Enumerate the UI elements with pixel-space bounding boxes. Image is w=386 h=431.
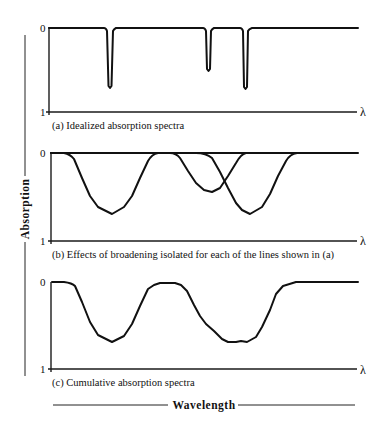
panel-b-y-bottom-label: 1 xyxy=(40,235,46,247)
panel-c-y-bottom-label: 1 xyxy=(40,363,46,375)
panel-a-y-bottom-label: 1 xyxy=(40,106,46,118)
panel-c-y-top-label: 0 xyxy=(40,276,46,288)
panel-b-broadened-line-3 xyxy=(196,153,297,214)
panel-b-broadened-line-2 xyxy=(170,153,246,192)
x-axis-title-group: Wavelength xyxy=(53,399,355,412)
panel-b-broadened-line-1 xyxy=(51,153,158,214)
x-axis-title: Wavelength xyxy=(172,399,235,412)
y-axis-title-group: Absorption xyxy=(19,35,32,376)
panel-a: 0 1 λ (a) Idealized absorption spectra xyxy=(40,22,366,132)
y-axis-title: Absorption xyxy=(19,179,32,240)
panel-a-spectrum-curve xyxy=(49,28,358,89)
panel-c-caption: (c) Cumulative absorption spectra xyxy=(52,377,195,389)
panel-a-caption: (a) Idealized absorption spectra xyxy=(52,120,184,132)
absorption-spectra-figure: Absorption 0 1 λ (a) Idealized absorptio… xyxy=(0,0,386,431)
panel-b-lambda-label: λ xyxy=(360,234,366,248)
panel-c: 0 1 λ (c) Cumulative absorption spectra xyxy=(40,276,366,389)
panel-c-cumulative-curve xyxy=(52,282,358,342)
panel-c-lambda-label: λ xyxy=(360,363,366,377)
figure-canvas: Absorption 0 1 λ (a) Idealized absorptio… xyxy=(0,0,386,431)
panel-a-y-top-label: 0 xyxy=(40,22,46,34)
panel-b: 0 1 λ (b) Effects of broadening isolated… xyxy=(40,147,366,261)
panel-a-lambda-label: λ xyxy=(360,105,366,119)
panel-b-caption: (b) Effects of broadening isolated for e… xyxy=(52,249,335,261)
panel-b-y-top-label: 0 xyxy=(40,147,46,159)
